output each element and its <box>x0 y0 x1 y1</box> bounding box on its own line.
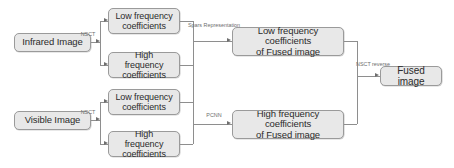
node-fused-low-line1: Low frequency coefficients <box>236 26 340 47</box>
edge-fused-low-out <box>344 41 357 42</box>
node-ir-low-text: Low frequency coefficients <box>109 11 178 31</box>
node-vis-high-line2: coefficients <box>112 149 176 159</box>
edge-label-nsct-reverse-line1: NSCT <box>356 61 371 67</box>
node-fused-low-line2: of Fused image <box>236 47 340 58</box>
edge-vis-low-out <box>180 102 193 103</box>
node-visible-high-frequency-coefficients: High frequency coefficients <box>108 131 180 157</box>
arrowhead-infrared-low <box>104 18 108 22</box>
edge-infrared-split-bus <box>100 21 101 65</box>
edge-ir-high-out <box>180 65 193 66</box>
edge-label-nsct-visible: NSCT <box>75 109 101 116</box>
flowchart-canvas: Infrared Image Visible Image Low frequen… <box>0 0 454 168</box>
arrowhead-infrared-high <box>104 62 108 66</box>
node-vis-low-line1: Low frequency <box>112 92 175 102</box>
node-fused-high-frequency-coefficients: High frequency coefficients of Fused ima… <box>232 110 344 139</box>
node-vis-low-text: Low frequency coefficients <box>109 92 178 112</box>
edge-vis-high-out <box>180 144 193 145</box>
node-fused-high-line2: of Fused image <box>236 130 340 141</box>
edge-label-nsct-infrared: NSCT <box>75 31 101 38</box>
edge-label-sparse-line2: Representation <box>204 22 241 28</box>
edge-label-sparse-representation: Spars Representation <box>186 22 242 29</box>
node-infrared-low-frequency-coefficients: Low frequency coefficients <box>108 8 180 34</box>
node-vis-high-line1: High frequency <box>112 129 176 149</box>
node-fused-low-frequency-coefficients: Low frequency coefficients of Fused imag… <box>232 27 344 56</box>
edge-label-nsct-reverse: NSCT reverse <box>356 61 384 68</box>
node-ir-low-line2: coefficients <box>112 21 175 31</box>
node-visible-low-frequency-coefficients: Low frequency coefficients <box>108 89 180 115</box>
node-visible-image-label: Visible Image <box>22 115 84 126</box>
node-ir-high-line1: High frequency <box>112 50 176 70</box>
edge-high-merge-bus <box>193 65 194 144</box>
node-ir-low-line1: Low frequency <box>112 11 175 21</box>
node-vis-low-line2: coefficients <box>112 102 175 112</box>
node-ir-high-text: High frequency coefficients <box>109 50 179 80</box>
node-infrared-image-label: Infrared Image <box>19 37 85 48</box>
edge-fused-high-out <box>344 124 357 125</box>
node-fused-high-line1: High frequency coefficients <box>236 109 340 130</box>
edge-label-sparse-line1: Spars <box>188 22 202 28</box>
arrowhead-visible-low <box>104 99 108 103</box>
edge-label-nsct-reverse-line2: reverse <box>372 61 390 67</box>
node-vis-high-text: High frequency coefficients <box>109 129 179 159</box>
arrowhead-low-fused <box>227 38 231 42</box>
node-fused-image-label: Fused image <box>381 65 441 87</box>
node-fused-image: Fused image <box>380 66 442 86</box>
node-infrared-high-frequency-coefficients: High frequency coefficients <box>108 52 180 78</box>
node-fused-low-text: Low frequency coefficients of Fused imag… <box>233 26 343 58</box>
edge-label-pcnn: PCNN <box>197 112 231 119</box>
edge-fused-merge-bus <box>357 41 358 124</box>
node-fused-high-text: High frequency coefficients of Fused ima… <box>233 109 343 141</box>
node-ir-high-line2: coefficients <box>112 70 176 80</box>
arrowhead-high-fused <box>227 121 231 125</box>
arrowhead-fused-output <box>375 73 379 77</box>
arrowhead-visible-high <box>104 141 108 145</box>
